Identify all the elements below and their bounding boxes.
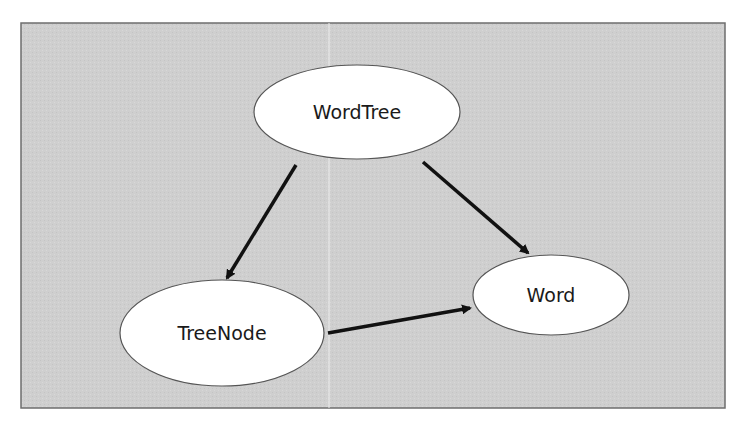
node-label: TreeNode bbox=[176, 322, 266, 344]
dependency-diagram: WordTree TreeNode Word bbox=[0, 0, 746, 435]
node-wordtree[interactable]: WordTree bbox=[254, 65, 460, 159]
node-label: WordTree bbox=[313, 101, 401, 123]
node-label: Word bbox=[527, 284, 576, 306]
node-word[interactable]: Word bbox=[473, 255, 629, 335]
node-treenode[interactable]: TreeNode bbox=[120, 280, 324, 386]
